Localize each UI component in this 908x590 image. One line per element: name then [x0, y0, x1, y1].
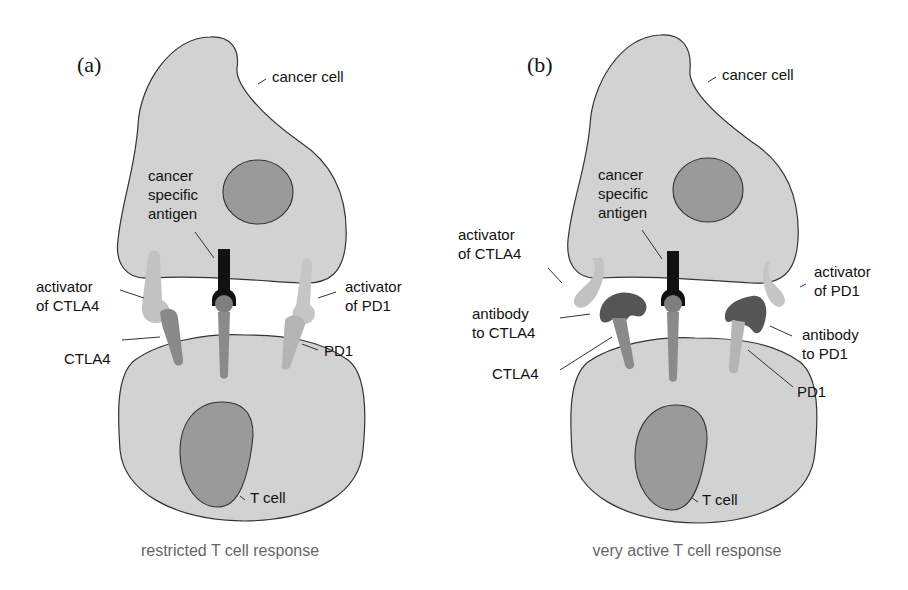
leader-ab-ctla4-b [560, 314, 590, 318]
label-ab-ctla4-b-1: antibody [472, 305, 529, 322]
leader-act-pd1-a [318, 292, 336, 298]
caption-b: very active T cell response [593, 542, 782, 559]
label-act-ctla4-b-2: of CTLA4 [458, 245, 521, 262]
label-act-pd1-a-1: activator [345, 278, 402, 295]
panel-b: (b) cancer cell [458, 35, 871, 559]
tcr-head-b [664, 295, 682, 313]
leader-ab-pd1-b [770, 326, 792, 336]
panel-b-label: (b) [527, 52, 553, 77]
caption-a: restricted T cell response [141, 542, 319, 559]
label-act-ctla4-a-2: of CTLA4 [36, 297, 99, 314]
cancer-nucleus-a [223, 160, 293, 224]
label-cancer-cell-b: cancer cell [722, 66, 794, 83]
label-antigen-a-1: cancer [148, 167, 193, 184]
label-ab-pd1-b-2: to PD1 [802, 345, 848, 362]
leader-act-ctla4-b [548, 268, 562, 283]
immunotherapy-diagram: (a) cancer cell cancer specific antig [0, 0, 908, 590]
label-act-pd1-a-2: of PD1 [345, 297, 391, 314]
panel-a-label: (a) [77, 52, 101, 77]
label-pd1-a: PD1 [324, 342, 353, 359]
label-act-ctla4-a-1: activator [36, 278, 93, 295]
label-act-pd1-b-1: activator [814, 263, 871, 280]
label-act-pd1-b-2: of PD1 [814, 282, 860, 299]
antigen-b [667, 251, 679, 291]
label-ab-pd1-b-1: antibody [802, 326, 859, 343]
panel-a: (a) cancer cell cancer specific antig [36, 37, 402, 559]
label-act-ctla4-b-1: activator [458, 226, 515, 243]
label-ab-ctla4-b-2: to CTLA4 [472, 324, 535, 341]
label-ctla4-a: CTLA4 [64, 350, 111, 367]
tcr-head-a [215, 295, 233, 313]
label-tcell-b: T cell [702, 491, 738, 508]
label-cancer-cell-a: cancer cell [272, 68, 344, 85]
leader-cancer-cell-b [708, 77, 716, 82]
label-antigen-b-2: specific [598, 185, 649, 202]
leader-act-ctla4-a [120, 290, 144, 298]
tcr-stem-b [667, 312, 679, 382]
label-ctla4-b: CTLA4 [492, 365, 539, 382]
cancer-nucleus-b [673, 158, 743, 222]
leader-act-pd1-b [800, 284, 806, 287]
label-tcell-a: T cell [250, 489, 286, 506]
label-antigen-b-1: cancer [598, 166, 643, 183]
label-antigen-a-2: specific [148, 186, 199, 203]
antigen-a [218, 249, 230, 291]
label-pd1-b: PD1 [797, 383, 826, 400]
label-antigen-a-3: antigen [148, 205, 197, 222]
leader-cancer-cell-a [258, 79, 266, 84]
label-antigen-b-3: antigen [598, 204, 647, 221]
leader-ctla4-a [122, 337, 160, 340]
pd1-antibody-b [725, 296, 766, 333]
